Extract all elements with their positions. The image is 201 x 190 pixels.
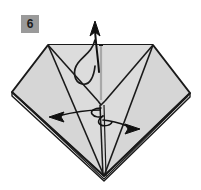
step-number-badge: 6	[21, 15, 39, 33]
step-number-label: 6	[27, 18, 34, 30]
origami-diagram-page: 6	[0, 0, 201, 190]
